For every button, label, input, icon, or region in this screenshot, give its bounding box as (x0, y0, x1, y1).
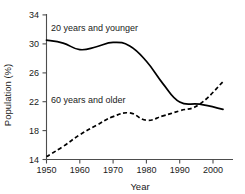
line-chart-figure: 34 30 26 22 18 14 1950 1960 1970 1980 19… (0, 0, 245, 194)
x-axis-ticks (47, 160, 214, 164)
y-tick-label-34: 34 (29, 10, 39, 20)
y-tick-label-22: 22 (29, 97, 39, 107)
x-tick-label-1950: 1950 (36, 165, 56, 175)
x-axis-title: Year (130, 181, 149, 192)
y-axis-title: Population (%) (2, 64, 13, 126)
series-line-60-years-and-older (47, 82, 224, 157)
annotation-20-years-and-younger: 20 years and younger (51, 23, 138, 33)
y-tick-label-26: 26 (29, 68, 39, 78)
chart-plot-area: 34 30 26 22 18 14 1950 1960 1970 1980 19… (0, 0, 245, 194)
y-tick-label-18: 18 (29, 126, 39, 136)
x-tick-label-1980: 1980 (136, 165, 156, 175)
x-tick-label-1960: 1960 (70, 165, 90, 175)
x-tick-label-1990: 1990 (170, 165, 190, 175)
y-tick-label-14: 14 (29, 155, 39, 165)
x-tick-label-2000: 2000 (203, 165, 223, 175)
y-tick-label-30: 30 (29, 39, 39, 49)
annotation-60-years-and-older: 60 years and older (51, 95, 126, 105)
y-axis-ticks (43, 15, 47, 160)
x-tick-label-1970: 1970 (103, 165, 123, 175)
